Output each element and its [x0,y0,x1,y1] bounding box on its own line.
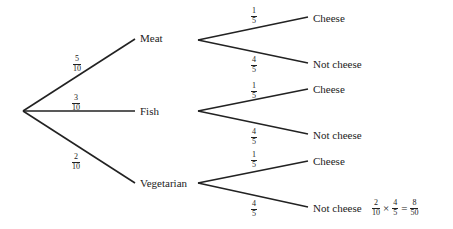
prob-fish-cheese: 15 [251,82,257,100]
node-fish-not-cheese: Not cheese [313,129,362,141]
node-vegetarian: Vegetarian [140,177,187,189]
tree-branches [0,0,453,229]
calc-factor-a: 210 [372,199,380,217]
node-veg-not-cheese: Not cheese [313,202,362,214]
prob-meat-not-cheese: 45 [251,56,257,74]
calc-factor-b: 45 [392,199,398,217]
node-veg-cheese: Cheese [313,155,345,167]
times-sign: × [383,202,389,214]
node-meat: Meat [140,32,163,44]
prob-fish: 310 [72,94,80,112]
node-fish-cheese: Cheese [313,83,345,95]
prob-veg-not-cheese: 45 [251,200,257,218]
probability-calculation: 210 × 45 = 850 [372,199,418,217]
prob-meat-cheese: 15 [251,7,257,25]
calc-result: 850 [410,199,418,217]
node-meat-not-cheese: Not cheese [313,58,362,70]
prob-meat: 510 [73,55,81,73]
node-meat-cheese: Cheese [313,12,345,24]
prob-fish-not-cheese: 45 [251,128,257,146]
branch-vegetarian [23,111,135,183]
prob-veg-cheese: 15 [251,151,257,169]
equals-sign: = [401,202,407,214]
prob-vegetarian: 210 [72,153,80,171]
node-fish: Fish [140,105,159,117]
